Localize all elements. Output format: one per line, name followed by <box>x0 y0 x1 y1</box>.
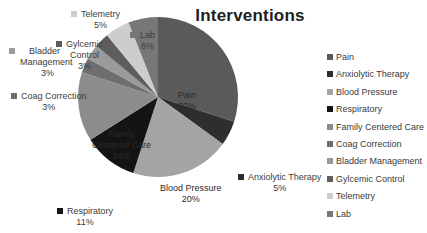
swatch-bladder-management <box>9 48 15 54</box>
legend-item-anxiolytic-therapy: Anxiolytic Therapy <box>327 68 424 85</box>
swatch-glycemic-control <box>56 41 62 47</box>
swatch-respiratory <box>57 208 63 214</box>
data-label-coag-correction: Coag Correction 3% <box>11 91 87 113</box>
legend-swatch-icon <box>327 141 333 147</box>
swatch-lab <box>130 32 136 38</box>
legend-item-coag-correction: Coag Correction <box>327 138 424 155</box>
data-label-respiratory: Respiratory 11% <box>57 206 113 228</box>
legend-swatch-icon <box>327 106 333 112</box>
legend-item-lab: Lab <box>327 208 424 225</box>
swatch-coag-correction <box>11 93 17 99</box>
legend-swatch-icon <box>327 158 333 164</box>
legend-swatch-icon <box>327 176 333 182</box>
data-label-lab: Lab 6% <box>130 30 155 52</box>
swatch-anxiolytic-therapy <box>238 174 244 180</box>
legend-swatch-icon <box>327 54 333 60</box>
data-label-anxiolytic-therapy: Anxiolytic Therapy 5% <box>238 172 321 194</box>
legend-item-bladder-management: Bladder Management <box>327 155 424 172</box>
legend-item-respiratory: Respiratory <box>327 103 424 120</box>
legend-swatch-icon <box>327 89 333 95</box>
legend-item-telemetry: Telemetry <box>327 190 424 207</box>
chart-legend: Pain Anxiolytic Therapy Blood Pressure R… <box>327 51 424 225</box>
legend-swatch-icon <box>327 71 333 77</box>
legend-item-blood-pressure: Blood Pressure <box>327 86 424 103</box>
data-label-telemetry: Telemetry 5% <box>71 9 120 31</box>
legend-item-glycemic-control: Gylcemic Control <box>327 173 424 190</box>
data-label-pain: Pain 30% <box>178 90 196 112</box>
legend-swatch-icon <box>327 124 333 130</box>
legend-item-pain: Pain <box>327 51 424 68</box>
legend-item-family-centered-care: Family Centered Care <box>327 121 424 138</box>
data-label-family-centered-care: Family Centered Care 14% <box>92 129 151 162</box>
legend-swatch-icon <box>327 211 333 217</box>
data-label-blood-pressure: Blood Pressure 20% <box>160 183 222 205</box>
data-label-glycemic-control: Gylcemic Control 3% <box>56 39 103 72</box>
legend-swatch-icon <box>327 193 333 199</box>
swatch-telemetry <box>71 11 77 17</box>
